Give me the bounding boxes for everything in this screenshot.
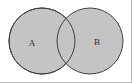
venn-diagram-figure: A B	[0, 0, 132, 83]
circle-set-b	[57, 8, 123, 74]
set-b-label: B	[94, 37, 100, 47]
venn-diagram-canvas: A B	[0, 0, 132, 83]
set-a-label: A	[29, 38, 36, 48]
